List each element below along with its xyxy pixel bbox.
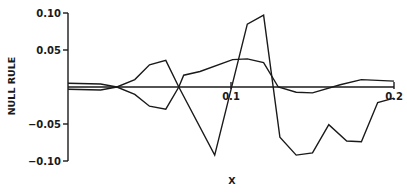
y-tick-label: −0.10 <box>28 156 61 167</box>
x-axis-ticks: 0.10.2 <box>222 82 403 102</box>
line-chart: 0.100.05−0.05−0.10 0.10.2 NULL RULE X <box>0 0 407 193</box>
x-tick-label: 0.1 <box>222 91 240 102</box>
y-axis: 0.100.05−0.05−0.10 <box>28 8 68 167</box>
y-axis-title: NULL RULE <box>6 57 17 116</box>
y-tick-label: 0.05 <box>36 45 61 56</box>
x-axis-title: X <box>228 175 236 186</box>
x-axis: 0.10.2 <box>68 82 403 102</box>
y-tick-label: −0.05 <box>28 119 61 130</box>
y-axis-ticks: 0.100.05−0.05−0.10 <box>28 8 68 167</box>
y-tick-label: 0.10 <box>36 8 61 19</box>
